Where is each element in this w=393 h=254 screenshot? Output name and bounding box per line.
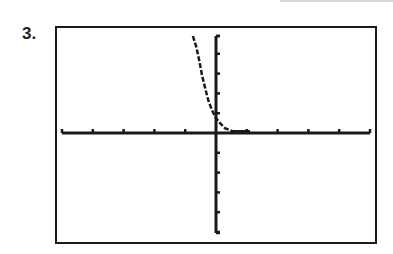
axes [62, 36, 370, 233]
curve-tail [234, 130, 250, 133]
calculator-graph [0, 0, 393, 254]
exponential-curve [193, 36, 250, 133]
curve-line [193, 36, 250, 132]
